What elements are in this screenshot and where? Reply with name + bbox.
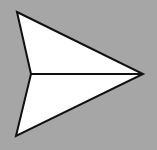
canvas bbox=[0, 0, 157, 150]
send-icon bbox=[0, 0, 157, 150]
send-button[interactable] bbox=[0, 0, 157, 150]
